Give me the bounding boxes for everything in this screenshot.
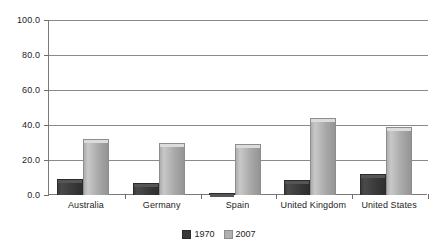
x-axis-label-united-kingdom: United Kingdom (275, 200, 351, 210)
legend-label: 1970 (194, 229, 214, 239)
bar-top-highlight (236, 145, 260, 148)
bar-chart: 0.020.040.060.080.0100.0 AustraliaGerman… (0, 0, 438, 251)
bar-1970-germany (133, 183, 159, 195)
bar-1970-united-states (360, 174, 386, 195)
y-axis-label-40.0: 40.0 (22, 120, 40, 130)
bar-2007-australia (83, 139, 109, 195)
bar-2007-united-kingdom (310, 118, 336, 195)
bar-1970-australia (57, 179, 83, 195)
y-tick-mark (44, 195, 49, 196)
bar-top-highlight (285, 181, 309, 184)
bar-1970-united-kingdom (284, 180, 310, 195)
legend-swatch-2007-icon (224, 230, 233, 239)
bar-top-highlight (134, 184, 158, 187)
bar-top-highlight (210, 194, 234, 197)
bars-layer: AustraliaGermanySpainUnited KingdomUnite… (48, 20, 427, 195)
legend-swatch-1970-icon (182, 230, 191, 239)
bar-top-highlight (58, 180, 82, 183)
legend-entry-1970[interactable]: 1970 (182, 229, 214, 239)
bar-top-highlight (84, 140, 108, 143)
bar-group-united-states: United States (351, 20, 427, 195)
x-axis-label-germany: Germany (124, 200, 200, 210)
bar-top-highlight (311, 119, 335, 122)
chart-legend: 19702007 (0, 229, 438, 239)
x-axis-label-spain: Spain (200, 200, 276, 210)
y-axis-label-0.0: 0.0 (27, 190, 40, 200)
bar-top-highlight (361, 175, 385, 178)
bar-group-united-kingdom: United Kingdom (275, 20, 351, 195)
y-axis-label-20.0: 20.0 (22, 155, 40, 165)
bar-2007-spain (235, 144, 261, 195)
legend-entry-2007[interactable]: 2007 (224, 229, 256, 239)
bar-1970-spain (209, 193, 235, 195)
y-axis-label-60.0: 60.0 (22, 85, 40, 95)
legend-label: 2007 (236, 229, 256, 239)
x-axis-label-australia: Australia (48, 200, 124, 210)
x-tick-mark (428, 194, 429, 199)
bar-top-highlight (387, 128, 411, 131)
bar-2007-germany (159, 143, 185, 196)
bar-group-australia: Australia (48, 20, 124, 195)
bar-top-highlight (160, 144, 184, 147)
bar-group-germany: Germany (124, 20, 200, 195)
bar-2007-united-states (386, 127, 412, 195)
bar-group-spain: Spain (200, 20, 276, 195)
y-axis-label-80.0: 80.0 (22, 50, 40, 60)
x-axis-label-united-states: United States (351, 200, 427, 210)
y-axis-label-100.0: 100.0 (17, 15, 40, 25)
